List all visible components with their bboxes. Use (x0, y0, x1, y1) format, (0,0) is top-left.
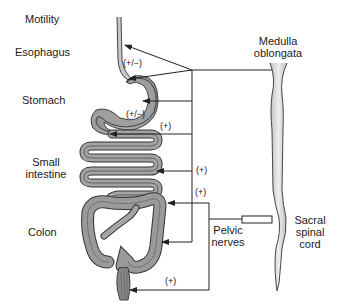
stomach-organ (91, 76, 158, 135)
label-small-intestine-line2: intestine (22, 168, 70, 181)
esophagus-organ (117, 17, 133, 80)
motility-title: Motility (25, 13, 59, 26)
colon-organ (88, 199, 161, 300)
label-colon: Colon (28, 226, 57, 239)
label-sacral-line3: cord (290, 238, 330, 251)
small-intestine-organ (84, 134, 158, 200)
spinal-cord (270, 63, 287, 291)
label-esophagus: Esophagus (15, 46, 70, 59)
effect-small-intestine: (+) (196, 165, 207, 175)
effect-esophagus: (+/−) (123, 58, 142, 68)
effect-small-intestine-top: (+) (160, 121, 171, 131)
effect-colon: (+) (195, 187, 206, 197)
effect-rectum: (+) (165, 276, 176, 286)
label-stomach: Stomach (22, 94, 65, 107)
label-pelvic-line2: nerves (209, 236, 247, 249)
effect-stomach: (+/−) (126, 109, 145, 119)
label-medulla-line2: oblongata (250, 47, 306, 60)
